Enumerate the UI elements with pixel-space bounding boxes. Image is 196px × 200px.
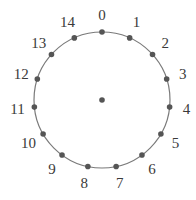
ring-node-4 bbox=[167, 104, 173, 110]
ring-node-0 bbox=[99, 29, 105, 35]
node-label-11: 11 bbox=[10, 101, 24, 117]
node-label-9: 9 bbox=[48, 161, 56, 177]
ring-node-7 bbox=[113, 164, 119, 170]
node-label-14: 14 bbox=[60, 14, 76, 30]
ring-node-14 bbox=[72, 35, 78, 41]
ring-node-13 bbox=[49, 52, 55, 58]
node-label-10: 10 bbox=[21, 135, 36, 151]
ring-diagram-svg: 01234567891011121314 bbox=[0, 0, 196, 200]
ring-node-1 bbox=[127, 35, 133, 41]
ring-node-12 bbox=[35, 76, 41, 82]
ring-node-9 bbox=[59, 152, 65, 158]
ring-diagram: 01234567891011121314 bbox=[0, 0, 196, 200]
node-label-3: 3 bbox=[179, 66, 187, 82]
node-label-4: 4 bbox=[183, 101, 191, 117]
ring-node-10 bbox=[40, 131, 46, 137]
ring-node-6 bbox=[139, 152, 145, 158]
ring-node-2 bbox=[150, 52, 156, 58]
node-label-12: 12 bbox=[14, 66, 29, 82]
ring-node-3 bbox=[164, 76, 170, 82]
node-label-5: 5 bbox=[172, 135, 180, 151]
node-label-1: 1 bbox=[133, 14, 141, 30]
ring-node-11 bbox=[32, 104, 38, 110]
ring-node-8 bbox=[85, 164, 91, 170]
ring-node-5 bbox=[158, 131, 164, 137]
node-label-13: 13 bbox=[31, 35, 46, 51]
node-label-8: 8 bbox=[81, 175, 89, 191]
node-label-6: 6 bbox=[148, 161, 156, 177]
node-label-7: 7 bbox=[116, 175, 124, 191]
node-label-2: 2 bbox=[161, 35, 169, 51]
node-label-0: 0 bbox=[98, 7, 106, 23]
center-node bbox=[99, 97, 105, 103]
